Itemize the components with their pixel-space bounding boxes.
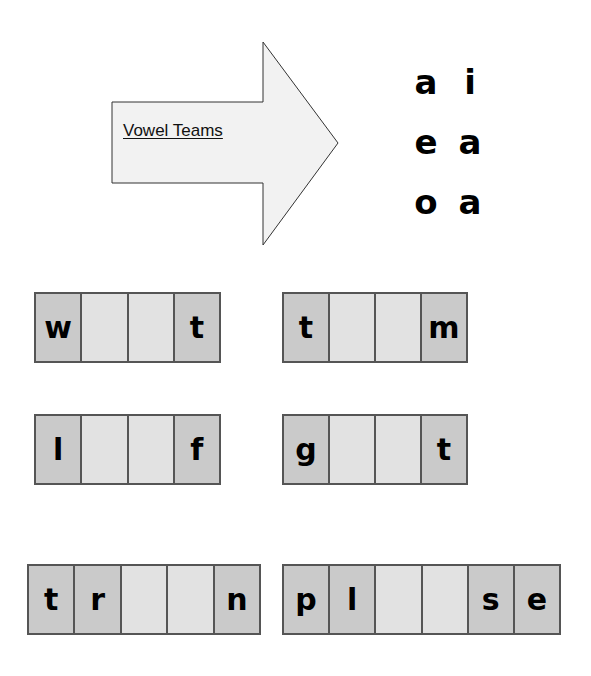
letter-cell: p <box>284 566 328 633</box>
word-box-plse: p l s e <box>282 564 561 635</box>
letter-cell: t <box>29 566 73 633</box>
letter-cell: g <box>284 416 328 483</box>
letter-cell: l <box>330 566 374 633</box>
word-box-trn: t r n <box>27 564 261 635</box>
letter-cell: n <box>215 566 259 633</box>
word-box-lf: l f <box>34 414 221 485</box>
blank-cell[interactable] <box>82 294 126 361</box>
vowel-letter: i <box>448 56 492 116</box>
blank-cell[interactable] <box>122 566 166 633</box>
vowel-letter: a <box>404 56 448 116</box>
vowel-letter: e <box>404 116 448 176</box>
letter-cell: r <box>75 566 119 633</box>
blank-cell[interactable] <box>376 294 420 361</box>
blank-cell[interactable] <box>129 294 173 361</box>
letter-cell: s <box>469 566 513 633</box>
blank-cell[interactable] <box>129 416 173 483</box>
vowel-letter: a <box>448 116 492 176</box>
blank-cell[interactable] <box>376 416 420 483</box>
letter-cell: m <box>422 294 466 361</box>
blank-cell[interactable] <box>330 416 374 483</box>
vowel-letter: a <box>448 176 492 236</box>
arrow-label: Vowel Teams <box>123 121 223 141</box>
vowel-letter: o <box>404 176 448 236</box>
blank-cell[interactable] <box>376 566 420 633</box>
vowel-team-list: a i e a o a <box>404 56 492 236</box>
letter-cell: l <box>36 416 80 483</box>
blank-cell[interactable] <box>330 294 374 361</box>
letter-cell: t <box>175 294 219 361</box>
word-box-tm: t m <box>282 292 468 363</box>
blank-cell[interactable] <box>423 566 467 633</box>
letter-cell: w <box>36 294 80 361</box>
letter-cell: t <box>422 416 466 483</box>
letter-cell: f <box>175 416 219 483</box>
blank-cell[interactable] <box>82 416 126 483</box>
word-box-wt: w t <box>34 292 221 363</box>
word-box-gt: g t <box>282 414 468 485</box>
letter-cell: t <box>284 294 328 361</box>
blank-cell[interactable] <box>168 566 212 633</box>
letter-cell: e <box>515 566 559 633</box>
arrow-icon <box>112 42 338 245</box>
